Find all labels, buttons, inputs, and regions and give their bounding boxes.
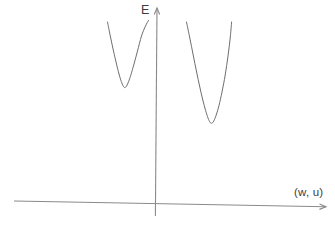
energy-well-plot: E (w, u) [0, 0, 335, 226]
plot-canvas [0, 0, 335, 226]
curve-right-well [187, 22, 232, 123]
curve-left-well [108, 21, 149, 88]
x-axis-label: (w, u) [294, 186, 323, 198]
y-axis-label: E [141, 3, 149, 17]
